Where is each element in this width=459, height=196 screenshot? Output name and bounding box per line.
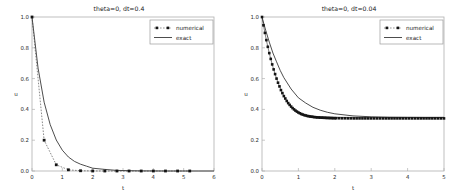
legend-label-numerical: numerical bbox=[176, 25, 204, 31]
x-tick-label: 4 bbox=[152, 174, 156, 180]
y-tick-label: 0.6 bbox=[250, 76, 259, 82]
data-marker bbox=[416, 117, 419, 120]
legend-numerical-marker bbox=[386, 27, 389, 30]
data-marker bbox=[373, 117, 376, 120]
data-marker bbox=[382, 117, 385, 120]
legend-right[interactable]: numerical exact bbox=[380, 20, 443, 44]
legend-left[interactable]: numerical exact bbox=[150, 20, 213, 44]
x-tick-label: 5 bbox=[442, 174, 445, 180]
data-marker bbox=[393, 117, 396, 120]
y-tick-label: 0.4 bbox=[20, 106, 29, 112]
data-marker bbox=[284, 97, 287, 100]
y-tick-label: 1.0 bbox=[250, 14, 259, 20]
data-marker bbox=[402, 117, 405, 120]
data-marker bbox=[440, 117, 443, 120]
y-tick-label: 0.6 bbox=[20, 76, 29, 82]
x-axis-right: 0 1 2 3 4 5 bbox=[260, 168, 445, 180]
data-marker bbox=[405, 117, 408, 120]
data-marker bbox=[152, 170, 155, 173]
data-marker bbox=[281, 92, 284, 95]
data-marker bbox=[272, 68, 275, 71]
x-tick-label: 6 bbox=[212, 174, 216, 180]
data-marker bbox=[176, 170, 179, 173]
data-marker bbox=[265, 39, 268, 42]
data-marker bbox=[411, 117, 414, 120]
x-tick-label: 0 bbox=[260, 174, 264, 180]
data-marker bbox=[367, 117, 370, 120]
data-marker bbox=[262, 24, 265, 27]
data-marker bbox=[275, 77, 278, 80]
data-marker bbox=[338, 117, 341, 120]
matplotlib-figure: theta=0, dt=0.4 0.0 0.2 0.4 0.6 0.8 1.0 bbox=[0, 0, 459, 196]
data-marker bbox=[341, 117, 344, 120]
data-marker bbox=[437, 117, 440, 120]
data-marker bbox=[280, 89, 283, 92]
y-tick-label: 0.0 bbox=[250, 168, 259, 174]
x-tick-label: 3 bbox=[121, 174, 124, 180]
data-marker bbox=[390, 117, 393, 120]
data-marker bbox=[31, 16, 34, 19]
data-marker bbox=[370, 117, 373, 120]
data-marker bbox=[43, 139, 46, 142]
panel-title-right: theta=0, dt=0.04 bbox=[322, 5, 377, 12]
data-marker bbox=[79, 169, 82, 172]
data-marker bbox=[352, 117, 355, 120]
y-axis-left: 0.0 0.2 0.4 0.6 0.8 1.0 bbox=[20, 14, 35, 174]
data-marker bbox=[364, 117, 367, 120]
data-marker bbox=[443, 117, 446, 120]
panel-title-left: theta=0, dt=0.4 bbox=[94, 5, 145, 12]
data-marker bbox=[399, 117, 402, 120]
data-marker bbox=[283, 95, 286, 98]
y-axis-label-left: u bbox=[14, 91, 18, 97]
data-marker bbox=[379, 117, 382, 120]
data-marker bbox=[350, 117, 353, 120]
x-tick-label: 2 bbox=[91, 174, 94, 180]
data-marker bbox=[55, 163, 58, 166]
subplot-right: theta=0, dt=0.04 0.0 0.2 0.4 0.6 0.8 1.0… bbox=[230, 0, 459, 196]
data-marker bbox=[387, 117, 390, 120]
data-marker bbox=[347, 117, 350, 120]
data-marker bbox=[268, 52, 271, 55]
y-tick-label: 0.4 bbox=[250, 106, 259, 112]
legend-label-numerical: numerical bbox=[406, 25, 434, 31]
y-axis-right: 0.0 0.2 0.4 0.6 0.8 1.0 bbox=[250, 14, 265, 174]
data-marker bbox=[261, 16, 264, 19]
data-marker bbox=[419, 117, 422, 120]
data-marker bbox=[428, 117, 431, 120]
legend-numerical-marker bbox=[167, 27, 170, 30]
data-marker bbox=[140, 170, 143, 173]
data-marker bbox=[434, 117, 437, 120]
data-marker bbox=[278, 85, 281, 88]
y-tick-label: 0.2 bbox=[250, 137, 259, 143]
data-marker bbox=[431, 117, 434, 120]
legend-numerical-marker bbox=[397, 27, 400, 30]
data-marker bbox=[361, 117, 364, 120]
data-marker bbox=[67, 168, 70, 171]
y-axis-label-right: u bbox=[244, 91, 248, 97]
x-tick-label: 3 bbox=[369, 174, 372, 180]
data-marker bbox=[422, 117, 425, 120]
x-tick-label: 5 bbox=[182, 174, 185, 180]
legend-label-exact: exact bbox=[176, 35, 192, 41]
x-tick-label: 2 bbox=[333, 174, 336, 180]
data-marker bbox=[358, 117, 361, 120]
legend-label-exact: exact bbox=[406, 35, 422, 41]
x-tick-label: 4 bbox=[406, 174, 410, 180]
data-marker bbox=[128, 170, 131, 173]
data-marker bbox=[396, 117, 399, 120]
data-marker bbox=[344, 117, 347, 120]
data-marker bbox=[164, 170, 167, 173]
data-marker bbox=[269, 58, 272, 61]
data-marker bbox=[91, 170, 94, 173]
x-axis-label-left: t bbox=[122, 185, 125, 191]
data-marker bbox=[264, 32, 267, 35]
data-marker bbox=[103, 170, 106, 173]
data-marker bbox=[277, 81, 280, 84]
x-axis-label-right: t bbox=[352, 185, 355, 191]
x-tick-label: 1 bbox=[297, 174, 300, 180]
data-marker bbox=[425, 117, 428, 120]
data-marker bbox=[384, 117, 387, 120]
y-tick-label: 1.0 bbox=[20, 14, 29, 20]
data-marker bbox=[408, 117, 411, 120]
y-tick-label: 0.2 bbox=[20, 137, 29, 143]
